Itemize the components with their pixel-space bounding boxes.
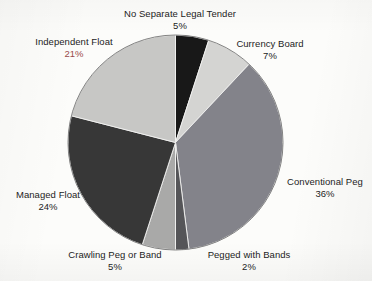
slice-value-text: 24% xyxy=(2,201,94,213)
slice-label-text: Crawling Peg or Band xyxy=(52,249,178,261)
slice-value-text: 5% xyxy=(52,261,178,273)
slice-value-text: 36% xyxy=(278,188,372,200)
slice-value-text: 7% xyxy=(224,50,316,62)
slice-label-currency-board: Currency Board 7% xyxy=(224,38,316,61)
slice-label-text: Pegged with Bands xyxy=(196,249,302,261)
slice-label-text: Conventional Peg xyxy=(278,176,372,188)
slice-label-text: Currency Board xyxy=(224,38,316,50)
slice-label-text: Managed Float xyxy=(2,189,94,201)
slice-label-pegged-with-bands: Pegged with Bands 2% xyxy=(196,249,302,272)
slice-label-crawling-peg-or-band: Crawling Peg or Band 5% xyxy=(52,249,178,272)
slice-label-text: Independent Float xyxy=(18,36,130,48)
slice-label-no-separate-legal-tender: No Separate Legal Tender 5% xyxy=(118,8,242,31)
slice-value-text: 5% xyxy=(118,20,242,32)
slice-value-text: 21% xyxy=(18,48,130,60)
slice-label-conventional-peg: Conventional Peg 36% xyxy=(278,176,372,199)
slice-value-text: 2% xyxy=(196,261,302,273)
pie-slice-group xyxy=(68,35,283,250)
slice-label-independent-float: Independent Float 21% xyxy=(18,36,130,59)
slice-label-text: No Separate Legal Tender xyxy=(118,8,242,20)
slice-label-managed-float: Managed Float 24% xyxy=(2,189,94,212)
pie-chart-figure: No Separate Legal Tender 5% Currency Boa… xyxy=(0,0,372,281)
